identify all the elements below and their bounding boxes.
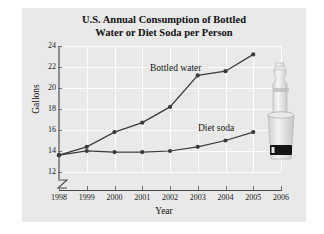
x-tick-mark [142, 186, 143, 190]
y-tick-mark [58, 130, 62, 131]
x-tick-mark [198, 186, 199, 190]
series-label-diet-soda: Diet soda [198, 123, 234, 133]
x-tick-mark [59, 186, 60, 190]
data-point-marker [251, 52, 255, 56]
x-tick-mark [170, 186, 171, 190]
y-tick-mark [58, 46, 62, 47]
data-point-marker [112, 130, 116, 134]
data-point-marker [112, 150, 116, 154]
y-tick-mark [58, 109, 62, 110]
data-point-marker [168, 105, 172, 109]
data-point-marker [223, 69, 227, 73]
series-label-bottled-water: Bottled water [150, 63, 201, 73]
data-point-marker [85, 149, 89, 153]
data-point-marker [223, 138, 227, 142]
data-point-marker [168, 149, 172, 153]
x-tick-mark [226, 186, 227, 190]
data-point-marker [57, 153, 61, 157]
x-tick-mark [281, 186, 282, 190]
y-tick-mark [58, 151, 62, 152]
data-point-marker [196, 145, 200, 149]
x-tick-mark [87, 186, 88, 190]
x-tick-mark [253, 186, 254, 190]
y-tick-mark [58, 67, 62, 68]
data-point-marker [85, 145, 89, 149]
data-point-marker [140, 121, 144, 125]
chart-figure: U.S. Annual Consumption of Bottled Water… [22, 8, 306, 222]
data-point-marker [251, 130, 255, 134]
data-point-marker [140, 150, 144, 154]
data-point-marker [196, 73, 200, 77]
y-tick-mark [58, 172, 62, 173]
x-tick-mark [115, 186, 116, 190]
bottled-water-photo [256, 61, 302, 167]
y-tick-mark [58, 88, 62, 89]
